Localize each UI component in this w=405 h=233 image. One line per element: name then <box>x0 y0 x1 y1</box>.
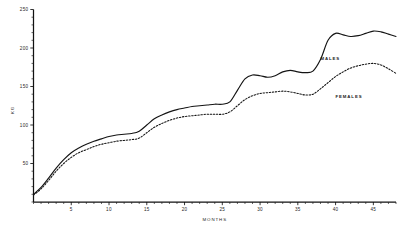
x-tick-label: 5 <box>70 207 73 212</box>
weight-growth-chart: 50100150200250 51015202530354045 KG MONT… <box>0 0 405 233</box>
y-axis-tick-labels: 50100150200250 <box>20 7 29 166</box>
x-tick-label: 35 <box>295 207 301 212</box>
y-tick-label: 250 <box>20 7 29 12</box>
x-tick-label: 20 <box>182 207 188 212</box>
x-tick-label: 45 <box>370 207 376 212</box>
series-label-females: FEMALES <box>336 94 363 99</box>
x-axis-tick-labels: 51015202530354045 <box>70 207 377 212</box>
series-curve-females <box>34 63 397 195</box>
axes-group <box>34 10 397 203</box>
x-tick-label: 30 <box>257 207 263 212</box>
y-tick-label: 100 <box>20 123 29 128</box>
x-tick-label: 40 <box>333 207 339 212</box>
y-tick-label: 50 <box>23 161 29 166</box>
y-tick-label: 150 <box>20 84 29 89</box>
x-axis-title: MONTHS <box>203 217 227 222</box>
y-tick-label: 200 <box>20 46 29 51</box>
series-label-males: MALES <box>320 56 340 61</box>
series-group <box>34 31 397 195</box>
y-axis-title: KG <box>10 106 15 114</box>
series-curve-males <box>34 31 397 194</box>
series-inline-labels: MALESFEMALES <box>320 56 362 100</box>
chart-canvas: 50100150200250 51015202530354045 KG MONT… <box>0 0 405 233</box>
x-tick-label: 15 <box>144 207 150 212</box>
x-tick-label: 10 <box>106 207 112 212</box>
x-tick-label: 25 <box>219 207 225 212</box>
